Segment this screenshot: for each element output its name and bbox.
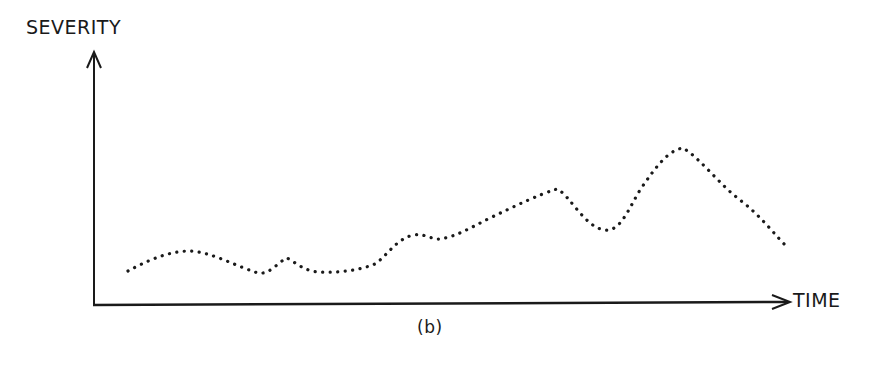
- severity-time-chart: [0, 0, 870, 366]
- x-axis-label: TIME: [793, 289, 841, 311]
- figure-caption: (b): [417, 317, 443, 337]
- x-axis: [93, 302, 788, 305]
- y-axis-label: SEVERITY: [26, 16, 121, 38]
- severity-curve: [128, 148, 787, 273]
